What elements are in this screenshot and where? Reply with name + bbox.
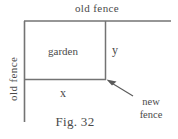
figure-diagram: old fence old fence garden y x new fence… — [0, 0, 178, 139]
label-old-fence-top: old fence — [62, 3, 132, 15]
label-new-fence-line1: new — [128, 95, 174, 108]
label-old-fence-left: old fence — [8, 48, 20, 110]
label-side-x: x — [60, 87, 66, 100]
label-side-y: y — [112, 44, 118, 57]
figure-caption: Fig. 32 — [44, 115, 106, 129]
label-new-fence-line2: fence — [128, 108, 174, 121]
label-new-fence: new fence — [128, 95, 174, 121]
label-garden: garden — [32, 46, 94, 58]
